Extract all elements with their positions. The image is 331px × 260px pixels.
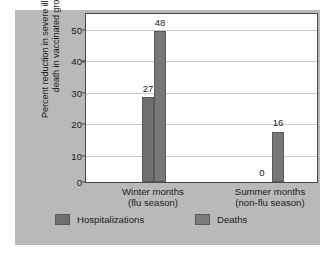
category-winter-line1: Winter months (93, 186, 213, 197)
bar-value-summer-hospitalizations: 0 (259, 167, 264, 178)
category-label-winter: Winter months (flu season) (93, 186, 213, 209)
plot-area: 27 48 0 16 (85, 13, 318, 183)
y-axis-title-text: Percent reduction in severe illness and … (40, 0, 62, 125)
category-summer-line2: (non-flu season) (210, 197, 330, 208)
y-tick-label-50: 50 (60, 25, 82, 36)
bar-summer-deaths (272, 132, 284, 182)
legend-swatch-deaths-icon (195, 214, 210, 225)
category-winter-line2: (flu season) (93, 197, 213, 208)
legend-swatch-hospitalizations-icon (55, 214, 70, 225)
y-tick-label-20: 20 (60, 119, 82, 130)
category-label-summer: Summer months (non-flu season) (210, 186, 330, 209)
gridline-40 (86, 61, 317, 62)
gridline-30 (86, 93, 317, 94)
category-summer-line1: Summer months (210, 186, 330, 197)
y-tick-label-0: 0 (60, 177, 82, 188)
legend-label-hospitalizations: Hospitalizations (77, 214, 144, 225)
y-tick-label-40: 40 (60, 56, 82, 67)
legend-item-hospitalizations: Hospitalizations (55, 214, 144, 225)
chart-figure-panel: Percent reduction in severe illness and … (15, 10, 320, 245)
bar-winter-hospitalizations (142, 97, 154, 182)
y-tick-label-10: 10 (60, 150, 82, 161)
y-tick-label-30: 30 (60, 87, 82, 98)
bar-value-summer-deaths: 16 (273, 117, 284, 128)
legend-label-deaths: Deaths (217, 214, 247, 225)
gridline-50 (86, 30, 317, 31)
chart-legend: Hospitalizations Deaths (15, 214, 320, 232)
legend-item-deaths: Deaths (195, 214, 247, 225)
bar-winter-deaths (154, 31, 166, 182)
bar-value-winter-deaths: 48 (155, 17, 166, 28)
bar-value-winter-hospitalizations: 27 (143, 83, 154, 94)
